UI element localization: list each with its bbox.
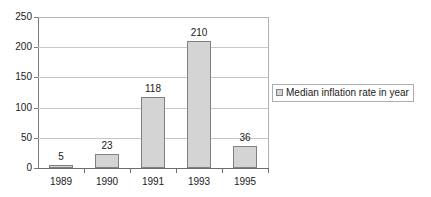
x-axis-label-1995: 1995 [222,176,268,187]
x-axis-line [38,168,269,169]
bar-slot-1991: 118 [130,17,176,168]
bar-value-1993: 210 [176,28,222,38]
bar-slot-1995: 36 [222,17,268,168]
bar-value-1991: 118 [130,84,176,94]
chart-legend[interactable]: Median inflation rate in year [272,84,414,102]
x-axis-label-1993: 1993 [176,176,222,187]
plot-right-border [268,17,269,169]
y-axis-label-50: 50 [2,133,32,143]
bar-slot-1989: 5 [38,17,84,168]
x-axis-tick-4 [222,168,223,173]
x-axis-label-1990: 1990 [84,176,130,187]
bar-slot-1990: 23 [84,17,130,168]
bar-slot-1993: 210 [176,17,222,168]
y-axis-label-150: 150 [2,72,32,82]
y-axis-label-200: 200 [2,42,32,52]
y-axis-label-250: 250 [2,12,32,22]
bar-value-1995: 36 [222,133,268,143]
x-axis-label-1989: 1989 [38,176,84,187]
legend-color-swatch-icon [276,89,283,96]
bar-value-1989: 5 [38,152,84,162]
y-axis-label-100: 100 [2,103,32,113]
y-axis-labels: 250 200 150 100 50 0 [0,0,32,197]
bar-1993[interactable] [187,41,211,168]
x-axis-label-1991: 1991 [130,176,176,187]
x-axis-tick-2 [130,168,131,173]
plot-area: 5 23 118 210 36 [38,17,268,168]
bar-1991[interactable] [141,97,165,168]
x-axis-tick-3 [176,168,177,173]
x-axis-tick-5 [268,168,269,173]
y-axis-label-0: 0 [2,163,32,173]
bar-chart: 250 200 150 100 50 0 5 23 11 [0,0,431,197]
bar-1990[interactable] [95,154,119,168]
x-axis-tick-1 [84,168,85,173]
bar-value-1990: 23 [84,141,130,151]
bar-1989[interactable] [49,165,73,168]
legend-series-label: Median inflation rate in year [286,87,409,98]
bar-1995[interactable] [233,146,257,168]
